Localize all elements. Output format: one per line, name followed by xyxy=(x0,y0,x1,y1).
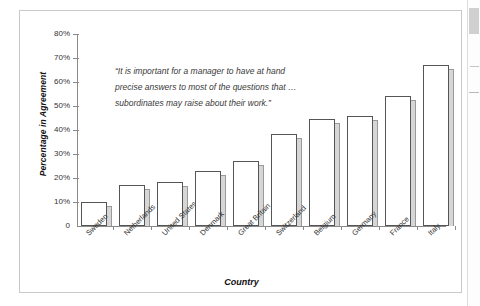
annotation-line: “It is important for a manager to have a… xyxy=(115,63,345,79)
page-right-edge xyxy=(467,0,480,306)
bar-shadow xyxy=(335,123,340,226)
x-axis-title: Country xyxy=(20,277,463,287)
x-axis-tick-mark xyxy=(455,226,456,230)
page-background: 80%70%60%50%40%30%20%10%0 Percentage in … xyxy=(0,0,480,306)
x-axis-tick-mark xyxy=(303,226,304,230)
annotation-line: subordinates may raise about their work.… xyxy=(115,95,345,111)
x-axis-tick-mark xyxy=(265,226,266,230)
bar xyxy=(309,119,335,226)
bars-layer: SwedenNetherlandsUnited StatesDenmarkGre… xyxy=(20,11,463,294)
edge-marker-upper xyxy=(470,66,479,67)
x-axis-tick-mark xyxy=(417,226,418,230)
bar xyxy=(385,96,411,226)
bar-shadow xyxy=(411,100,416,226)
chart-figure-card: 80%70%60%50%40%30%20%10%0 Percentage in … xyxy=(19,10,462,293)
x-axis-tick-mark xyxy=(151,226,152,230)
annotation-line: precise answers to most of the questions… xyxy=(115,79,345,95)
bar-shadow xyxy=(449,69,454,226)
x-axis-tick-mark xyxy=(189,226,190,230)
x-axis-tick-mark xyxy=(113,226,114,230)
x-axis-tick-mark xyxy=(341,226,342,230)
bar xyxy=(423,65,449,226)
chart-annotation-quote: “It is important for a manager to have a… xyxy=(115,63,345,111)
chart-plot-area: 80%70%60%50%40%30%20%10%0 Percentage in … xyxy=(20,11,463,294)
bar xyxy=(347,116,373,226)
edge-marker-lower xyxy=(469,92,479,93)
x-axis-tick-mark xyxy=(227,226,228,230)
x-axis-tick-mark xyxy=(379,226,380,230)
scrollbar-thumb[interactable] xyxy=(469,8,479,34)
